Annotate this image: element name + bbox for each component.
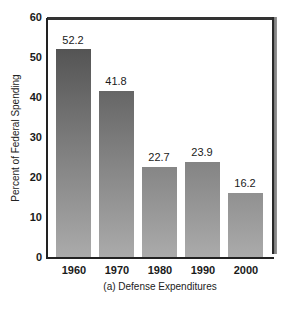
bar-1980 xyxy=(142,167,177,258)
y-tick: 40 xyxy=(0,91,42,103)
y-axis-line xyxy=(46,18,48,259)
x-axis-line xyxy=(46,257,274,259)
bar-1970 xyxy=(99,91,134,258)
x-tick: 2000 xyxy=(221,264,271,276)
value-label: 23.9 xyxy=(177,146,227,158)
chart-subtitle: (a) Defense Expenditures xyxy=(48,281,272,292)
value-label: 41.8 xyxy=(91,75,141,87)
value-label: 16.2 xyxy=(220,177,270,189)
y-tick: 20 xyxy=(0,171,42,183)
plot-area: 52.2 41.8 22.7 23.9 16.2 xyxy=(48,18,272,258)
frame-right-border xyxy=(272,17,277,254)
bar-1960 xyxy=(56,49,91,258)
y-tick: 10 xyxy=(0,211,42,223)
y-tick: 30 xyxy=(0,131,42,143)
bar-2000 xyxy=(228,193,263,258)
y-tick: 0 xyxy=(0,251,42,263)
bar-1990 xyxy=(185,162,220,258)
y-tick: 50 xyxy=(0,51,42,63)
y-tick: 60 xyxy=(0,11,42,23)
value-label: 52.2 xyxy=(48,34,98,46)
